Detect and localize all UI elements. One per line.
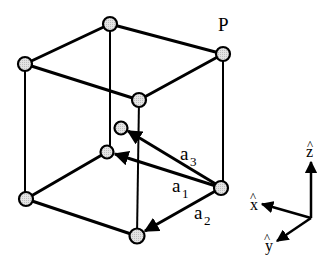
- corner-label-P: P: [218, 14, 229, 35]
- x-axis-arrow: [262, 204, 311, 218]
- node-bottom-front: [130, 229, 145, 244]
- coordinate-axes: ^ z ^ x ^ y: [250, 137, 313, 255]
- node-top-left: [18, 57, 32, 71]
- z-axis-label: z: [306, 143, 313, 160]
- node-bottom-right: [214, 181, 228, 195]
- svg-text:a: a: [172, 175, 181, 196]
- node-body-center: [115, 122, 128, 135]
- node-top-back: [103, 17, 117, 31]
- node-bottom-left: [19, 192, 33, 206]
- svg-text:a: a: [180, 143, 189, 164]
- label-a1: a 1: [172, 175, 189, 201]
- cube-bottom-face: [26, 152, 137, 236]
- svg-text:a: a: [194, 202, 203, 223]
- node-bottom-back: [101, 146, 114, 159]
- x-axis-label: x: [250, 196, 258, 213]
- svg-text:3: 3: [190, 154, 197, 169]
- label-a2: a 2: [194, 202, 211, 228]
- y-axis-arrow: [277, 218, 311, 241]
- y-axis-label: y: [265, 237, 273, 255]
- unit-cell-diagram: P a 3 a 1 a 2 ^ z ^ x ^ y: [0, 0, 335, 265]
- node-top-front: [132, 93, 146, 107]
- cube-top-face: [25, 24, 223, 100]
- vector-a1: [115, 154, 219, 187]
- node-top-right-P: [216, 47, 230, 61]
- svg-text:1: 1: [182, 186, 189, 201]
- svg-text:2: 2: [204, 213, 211, 228]
